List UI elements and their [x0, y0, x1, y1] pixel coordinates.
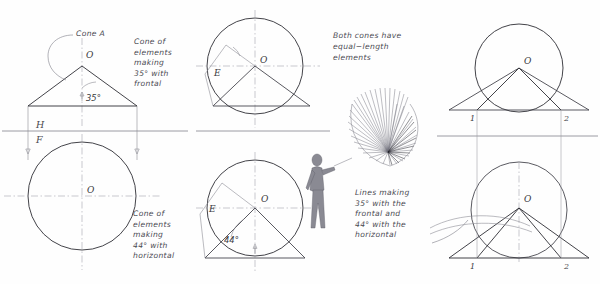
label-e-top-center: E — [213, 68, 221, 78]
note-cone-horizontal: Cone of elements making 44° with horizon… — [133, 209, 175, 260]
cone-left-element — [28, 66, 82, 106]
note-cone-frontal: Cone of elements making 35° with frontal — [134, 37, 175, 88]
label-apex-top-left: O — [86, 50, 94, 60]
bc-left-element — [205, 208, 255, 258]
br-construction-arc-2 — [430, 223, 532, 234]
lines-making-leader — [432, 220, 468, 243]
label-point-2-top: 2 — [563, 114, 569, 123]
label-h: H — [35, 119, 45, 130]
br-construction-arc — [430, 216, 530, 228]
label-e-bottom-center: E — [208, 204, 216, 214]
br-right-element — [519, 208, 589, 258]
label-f: F — [35, 134, 43, 145]
bc-element-OE — [222, 183, 255, 208]
tr-right-element — [519, 68, 589, 110]
human-figure — [306, 154, 352, 228]
label-apex-bottom-right: O — [524, 194, 532, 204]
label-angle-35-left: 35° — [86, 93, 101, 103]
label-point-2-bottom: 2 — [563, 262, 569, 271]
fold-line-group — [2, 131, 598, 136]
label-apex-bottom-center: O — [261, 194, 269, 204]
note-equal-elements: Both cones have equal−length elements — [333, 31, 404, 62]
label-point-1-top: 1 — [470, 114, 475, 123]
bc-element-tick — [200, 214, 205, 258]
label-apex-top-right: O — [524, 56, 532, 66]
angle-arc-35 — [82, 82, 96, 88]
view-top-left — [28, 35, 137, 131]
note-lines-making: Lines making 35° with the frontal and 44… — [355, 188, 412, 239]
label-point-1-bottom: 1 — [470, 262, 475, 271]
label-cone-a: Cone A — [76, 29, 105, 38]
cone-a-leader — [48, 35, 73, 80]
technical-drawing-sheet: O Cone A 35° H F O O E Cone of — [0, 0, 600, 284]
drawing-canvas: O Cone A 35° H F O O E Cone of — [0, 0, 600, 284]
cone-element-fan — [348, 88, 417, 165]
view-bottom-right — [430, 136, 589, 262]
tc-right-element — [255, 66, 310, 106]
tc-element-OE — [226, 45, 255, 66]
label-apex-top-center: O — [260, 55, 268, 65]
bc-right-element — [255, 208, 305, 258]
label-apex-bottom-left: O — [87, 185, 95, 195]
label-angle-44: 44° — [224, 235, 239, 245]
tr-left-element — [449, 68, 519, 110]
